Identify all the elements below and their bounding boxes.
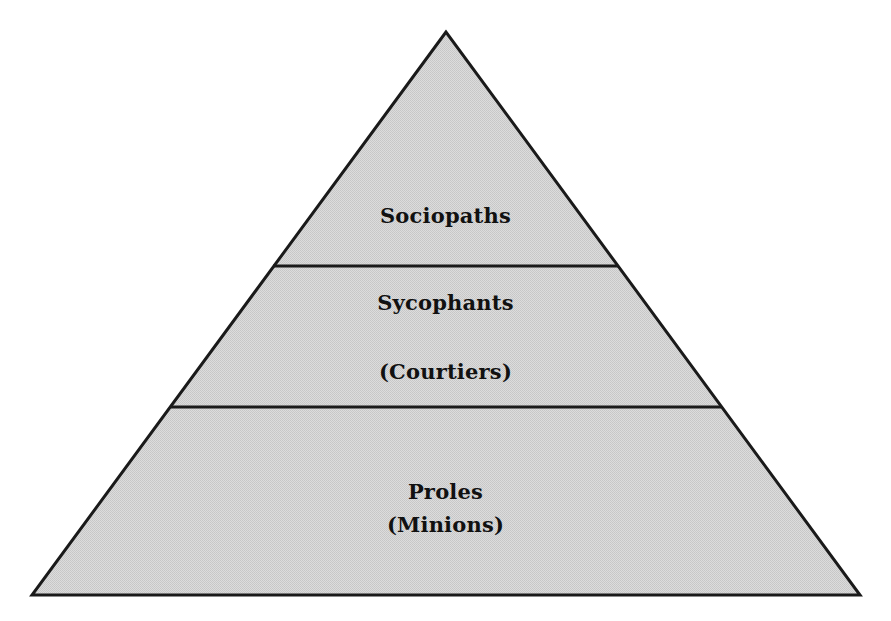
tier-top-label: Sociopaths [0,204,891,228]
tier-middle-sublabel: (Courtiers) [0,360,891,384]
tier-middle-label: Sycophants [0,291,891,315]
pyramid-diagram: Sociopaths Sycophants (Courtiers) Proles… [0,0,891,621]
tier-bottom-label: Proles [0,480,891,504]
tier-bottom-sublabel: (Minions) [0,513,891,537]
